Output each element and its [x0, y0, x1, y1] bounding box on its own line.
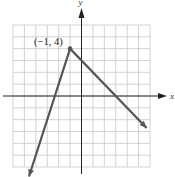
vertex-label: (−1, 4) — [34, 36, 63, 48]
y-axis-arrow-icon — [79, 8, 85, 18]
axes: x y — [3, 0, 174, 174]
x-axis-arrow-icon — [158, 93, 167, 99]
y-axis-label: y — [78, 0, 83, 7]
coordinate-graph: x y (−1, 4) — [0, 0, 175, 177]
x-axis-label: x — [169, 91, 174, 101]
graph-line — [28, 46, 146, 176]
